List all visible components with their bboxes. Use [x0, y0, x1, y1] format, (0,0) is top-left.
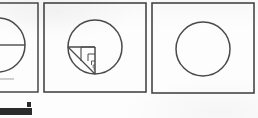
figure-canvas — [0, 0, 258, 118]
scan-speck — [27, 102, 31, 107]
scan-artifacts — [0, 78, 32, 115]
scan-smudge — [0, 78, 14, 80]
panel-middle — [44, 3, 146, 92]
panel-right-circle — [176, 22, 230, 76]
scanned-figure-page — [0, 0, 258, 118]
panel-right — [152, 3, 254, 93]
panel-right-frame — [152, 3, 254, 93]
nested-step-2 — [88, 54, 95, 61]
scan-edge-bar — [0, 108, 32, 115]
